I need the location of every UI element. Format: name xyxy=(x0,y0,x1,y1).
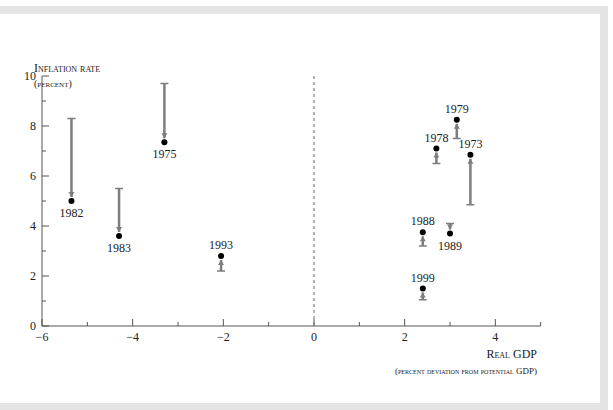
data-point-1973: 1973 xyxy=(458,137,482,205)
arrow-head-icon xyxy=(420,236,426,241)
arrow-head-icon xyxy=(433,153,439,158)
year-label: 1988 xyxy=(411,214,435,228)
x-tick-label: −6 xyxy=(36,330,49,344)
year-label: 1979 xyxy=(445,102,469,116)
data-series: 1982198319751993199919881989197819791973 xyxy=(59,84,482,300)
arrow-head-icon xyxy=(161,133,167,138)
y-tick-label: 10 xyxy=(24,69,36,83)
data-point-1982: 1982 xyxy=(59,119,83,221)
x-tick-label: −2 xyxy=(217,330,230,344)
year-label: 1989 xyxy=(438,239,462,253)
x-tick-label: 4 xyxy=(492,330,498,344)
year-label: 1973 xyxy=(458,137,482,151)
arrow-head-icon xyxy=(454,124,460,129)
data-point-1978: 1978 xyxy=(424,131,448,164)
data-dot xyxy=(447,231,453,237)
data-point-1983: 1983 xyxy=(107,189,131,256)
data-dot xyxy=(454,117,460,123)
year-label: 1993 xyxy=(209,238,233,252)
x-axis-title: Real GDP xyxy=(486,347,537,361)
data-dot xyxy=(467,152,473,158)
year-label: 1982 xyxy=(59,206,83,220)
x-tick-label: 0 xyxy=(311,330,317,344)
data-dot xyxy=(161,139,167,145)
data-point-1989: 1989 xyxy=(438,224,462,253)
y-tick-label: 0 xyxy=(30,319,36,333)
year-label: 1978 xyxy=(424,131,448,145)
y-tick-label: 8 xyxy=(30,119,36,133)
arrow-head-icon xyxy=(116,227,122,232)
inflation-gdp-chart: Inflation rate (percent) Real GDP (perce… xyxy=(0,0,613,410)
data-point-1988: 1988 xyxy=(411,214,435,246)
data-dot xyxy=(68,198,74,204)
data-dot xyxy=(420,229,426,235)
arrow-head-icon xyxy=(68,192,74,197)
x-axis-subtitle: (percent deviation from potential GDP) xyxy=(395,366,537,376)
data-dot xyxy=(218,253,224,259)
year-label: 1975 xyxy=(152,147,176,161)
x-tick-label: −4 xyxy=(126,330,139,344)
year-label: 1983 xyxy=(107,241,131,255)
data-point-1975: 1975 xyxy=(152,84,176,162)
y-tick-label: 2 xyxy=(30,269,36,283)
arrow-head-icon xyxy=(447,225,453,230)
data-dot xyxy=(116,233,122,239)
arrow-head-icon xyxy=(420,293,426,298)
year-label: 1999 xyxy=(411,271,435,285)
arrow-head-icon xyxy=(467,159,473,164)
data-point-1993: 1993 xyxy=(209,238,233,271)
data-dot xyxy=(420,286,426,292)
y-tick-label: 4 xyxy=(30,219,36,233)
y-axis-subtitle: (percent) xyxy=(34,78,72,90)
x-tick-label: 2 xyxy=(402,330,408,344)
arrow-head-icon xyxy=(218,260,224,265)
data-dot xyxy=(433,146,439,152)
y-tick-label: 6 xyxy=(30,169,36,183)
data-point-1999: 1999 xyxy=(411,271,435,300)
y-axis-title: Inflation rate xyxy=(34,61,100,75)
